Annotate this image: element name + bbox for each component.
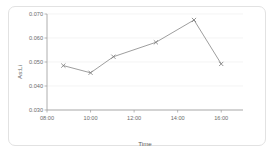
y-tick-label-1: 0.040 [29,83,43,89]
x-axis-title: Time [138,140,152,147]
x-tick-label-4: 16:00 [214,115,228,121]
series-line-As:Li [63,20,221,73]
screenshot-root: 0.0300.0400.0500.0600.07008:0010:0012:00… [0,0,275,157]
y-tick-label-4: 0.070 [29,11,43,17]
x-tick-label-2: 12:00 [127,115,141,121]
y-tick-label-0: 0.030 [29,107,43,113]
x-tick-label-3: 14:00 [171,115,185,121]
y-axis-title: As:Li [16,65,23,79]
x-tick-label-0: 08:00 [40,115,54,121]
x-tick-label-1: 10:00 [84,115,98,121]
line-chart: 0.0300.0400.0500.0600.07008:0010:0012:00… [0,0,275,157]
y-tick-label-2: 0.050 [29,59,43,65]
y-tick-label-3: 0.060 [29,35,43,41]
chart-svg: 0.0300.0400.0500.0600.07008:0010:0012:00… [0,0,275,157]
